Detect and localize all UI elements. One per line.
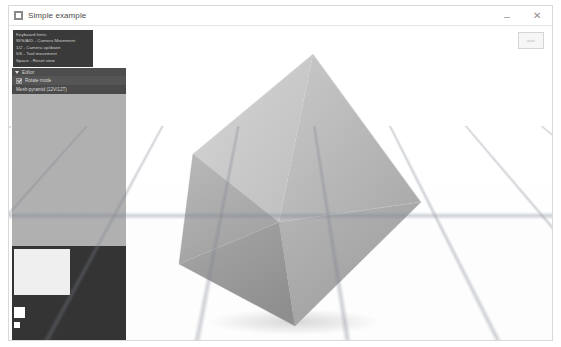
editor-row-label: Rotate mode [25, 78, 51, 83]
window-controls: – ✕ [492, 6, 552, 25]
editor-panel-title: Editor [22, 70, 35, 75]
editor-swatch-area[interactable] [12, 246, 126, 341]
app-window-icon [14, 11, 23, 20]
editor-row-label: Mesh-pyramid (12V/12T) [16, 87, 67, 92]
editor-row-mesh-pyramid[interactable]: Mesh-pyramid (12V/12T) [12, 85, 126, 94]
editor-row-rotate-mode[interactable]: Rotate mode [12, 76, 126, 85]
viewport-3d[interactable]: Keyboard hints: W/S/A/D - Camera Movemen… [9, 26, 552, 341]
application-window: Simple example – ✕ [8, 5, 553, 341]
axis-gizmo[interactable]: axis [518, 32, 544, 49]
minimize-button[interactable]: – [492, 6, 522, 25]
editor-panel[interactable]: Editor Rotate mode Mesh-pyramid (12V/12T… [12, 68, 126, 341]
screenshot-root: Simple example – ✕ [0, 0, 561, 347]
color-swatch-large[interactable] [14, 249, 70, 295]
chevron-down-icon[interactable] [15, 71, 19, 74]
octahedron-mesh[interactable] [127, 26, 427, 336]
editor-panel-header[interactable]: Editor [12, 68, 126, 76]
hint-line-reset-view: Space - Reset view [16, 58, 90, 64]
keyboard-hints-overlay: Keyboard hints: W/S/A/D - Camera Movemen… [13, 30, 93, 67]
checkbox-icon[interactable] [16, 78, 22, 84]
color-swatch-tiny[interactable] [14, 322, 20, 328]
close-button[interactable]: ✕ [522, 6, 552, 25]
color-swatch-small[interactable] [14, 307, 25, 318]
title-bar[interactable]: Simple example – ✕ [9, 6, 552, 26]
editor-panel-body [12, 94, 126, 246]
window-title: Simple example [28, 11, 86, 20]
